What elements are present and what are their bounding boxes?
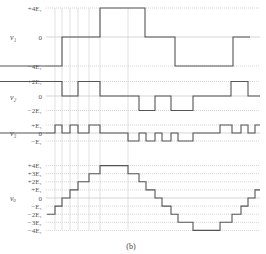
level-label-v1: 0 [39,34,43,42]
guide-lines [55,8,128,230]
waveform-diagram: v₁+4E₁0−4E₁v₂+2E₁0−2E₁v₃+E₁0−E₁vₒ+4E₁+3E… [0,0,266,254]
level-label-vo: +3E₁ [28,170,42,178]
level-label-vo: 0 [39,195,43,203]
level-label-vo: −4E₁ [28,227,42,235]
level-label-vo: +2E₁ [28,178,42,186]
level-label-v1: +4E₁ [28,5,42,13]
figure-caption: (b) [126,242,136,251]
level-label-v3: +E₁ [31,122,42,130]
level-label-v1: −4E₁ [28,63,42,71]
ylabel-v1: v₁ [10,33,17,42]
ylabel-v3: v₃ [10,129,17,138]
level-label-vo: −E₁ [31,203,42,211]
level-label-vo: −2E₁ [28,211,42,219]
labels: v₁+4E₁0−4E₁v₂+2E₁0−2E₁v₃+E₁0−E₁vₒ+4E₁+3E… [10,5,43,235]
level-label-v2: −2E₁ [28,107,42,115]
level-label-vo: +E₁ [31,186,42,194]
level-label-vo: −3E₁ [28,219,42,227]
level-label-v2: 0 [39,93,43,101]
level-label-vo: +4E₁ [28,162,42,170]
level-label-v2: +2E₁ [28,78,42,86]
level-label-v3: 0 [39,130,43,138]
ylabel-v2: v₂ [10,93,17,102]
level-label-v3: −E₁ [31,138,42,146]
ylabel-vo: vₒ [10,194,17,203]
